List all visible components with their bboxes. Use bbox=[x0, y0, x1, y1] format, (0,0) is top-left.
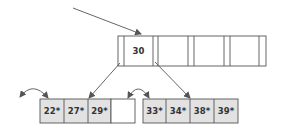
leaf-entry: 39* bbox=[218, 106, 235, 116]
leaf-node-left: 22* 27* 29* bbox=[40, 99, 135, 123]
leaf-node-right: 33* 34* 38* 39* bbox=[143, 99, 238, 123]
root-key-1: 30 bbox=[133, 46, 145, 56]
leaf-entry: 27* bbox=[68, 106, 85, 116]
leaf-entry: 29* bbox=[91, 106, 108, 116]
root-pointer-arrow bbox=[73, 8, 141, 34]
b-plus-tree-diagram: 30 22* 27* 29* 33* 34* 38* 39* bbox=[0, 0, 281, 131]
child-pointer-arrow-left bbox=[89, 63, 120, 98]
leaf-entry: 38* bbox=[194, 106, 211, 116]
sibling-link-arrow-middle bbox=[128, 89, 149, 98]
child-pointer-arrow-right bbox=[155, 62, 190, 98]
leaf-entry: 33* bbox=[146, 106, 163, 116]
leaf-entry: 34* bbox=[170, 106, 187, 116]
sibling-link-arrow-left bbox=[20, 89, 48, 98]
leaf-entry: 22* bbox=[44, 106, 61, 116]
root-node: 30 bbox=[118, 36, 266, 66]
